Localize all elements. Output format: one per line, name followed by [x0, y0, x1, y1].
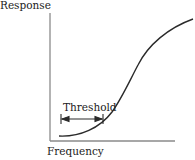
response-diagram — [0, 0, 195, 160]
threshold-arrow — [61, 114, 103, 124]
